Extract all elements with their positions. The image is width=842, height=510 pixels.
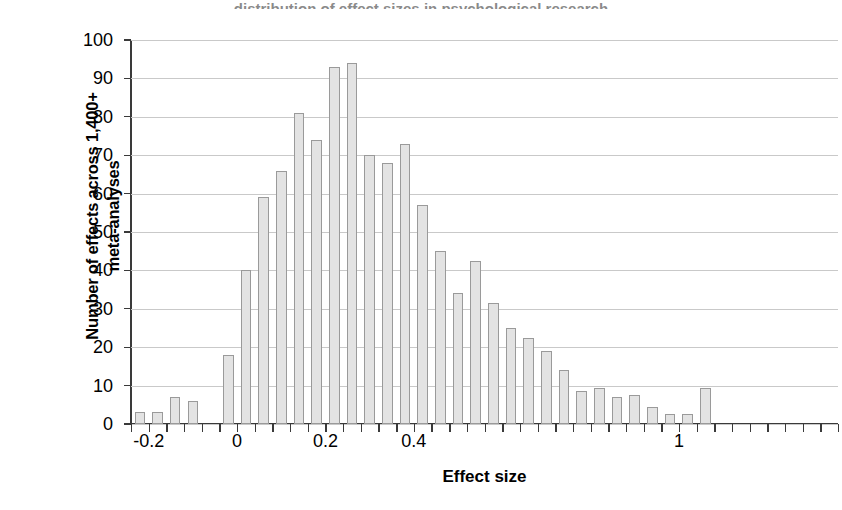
x-axis-tick <box>714 424 715 432</box>
y-axis-tick-label: 40 <box>53 261 113 279</box>
x-axis-tick-label: 1 <box>649 432 709 450</box>
x-axis-tick <box>838 424 839 432</box>
y-axis-tick <box>124 193 131 194</box>
x-axis-tick <box>485 424 486 432</box>
y-axis-tick <box>124 155 131 156</box>
x-axis-tick <box>538 424 539 432</box>
x-axis-tick <box>255 424 256 432</box>
y-axis-tick <box>124 423 131 424</box>
x-axis-tick <box>661 424 662 432</box>
y-axis-tick <box>124 116 131 117</box>
histogram-bar <box>453 293 464 424</box>
x-axis-tick-label: 0 <box>207 432 267 450</box>
x-axis-tick <box>820 424 821 432</box>
x-axis-tick <box>431 424 432 432</box>
histogram-bar <box>523 338 534 424</box>
histogram-bar <box>329 67 340 424</box>
x-axis-tick <box>573 424 574 432</box>
x-axis-tick <box>202 424 203 432</box>
x-axis-tick <box>396 424 397 432</box>
histogram-bar <box>152 412 163 424</box>
histogram-bar <box>594 388 605 424</box>
x-axis-tick <box>219 424 220 432</box>
gridline <box>131 40 838 41</box>
x-axis-tick <box>272 424 273 432</box>
histogram-bar <box>294 113 305 424</box>
gridline <box>131 309 838 310</box>
y-axis-tick-label: 80 <box>53 108 113 126</box>
gridline <box>131 386 838 387</box>
y-axis-tick <box>124 385 131 386</box>
histogram-bar <box>470 261 481 424</box>
histogram-bar <box>647 407 658 424</box>
gridline <box>131 155 838 156</box>
y-axis-tick-label: 0 <box>53 415 113 433</box>
x-axis-tick-label: 0.2 <box>295 432 355 450</box>
x-axis-tick <box>166 424 167 432</box>
y-axis-tick <box>124 231 131 232</box>
histogram-bar <box>347 63 358 424</box>
histogram-bar <box>488 303 499 424</box>
x-axis-tick-label: 0.4 <box>384 432 444 450</box>
x-axis-tick <box>555 424 556 432</box>
x-axis-tick <box>785 424 786 432</box>
histogram-bar <box>276 171 287 424</box>
histogram-bar <box>506 328 517 424</box>
x-axis-tick <box>644 424 645 432</box>
x-axis-title: Effect size <box>131 467 838 487</box>
y-axis-tick <box>124 308 131 309</box>
y-axis-tick-label: 50 <box>53 223 113 241</box>
x-axis-tick <box>697 424 698 432</box>
x-axis-tick <box>343 424 344 432</box>
plot-area: 0102030405060708090100 <box>131 40 838 424</box>
x-axis-tick <box>449 424 450 432</box>
histogram-bar <box>665 414 676 424</box>
y-axis-tick-label: 100 <box>53 31 113 49</box>
y-axis-tick <box>124 347 131 348</box>
histogram-bar <box>170 397 181 424</box>
y-axis-tick-label: 10 <box>53 377 113 395</box>
y-axis-tick <box>124 78 131 79</box>
histogram-bar <box>241 270 252 424</box>
histogram-bar <box>629 395 640 424</box>
x-axis-tick <box>467 424 468 432</box>
histogram-bar <box>559 370 570 424</box>
x-axis-tick <box>591 424 592 432</box>
histogram-bar <box>417 205 428 424</box>
x-axis-tick <box>626 424 627 432</box>
x-axis-tick <box>803 424 804 432</box>
gridline <box>131 232 838 233</box>
x-axis-tick <box>290 424 291 432</box>
histogram-bar <box>576 391 587 424</box>
effect-size-histogram-figure: distribution of effect sizes in psycholo… <box>0 0 842 510</box>
x-axis-tick <box>767 424 768 432</box>
x-axis-tick <box>750 424 751 432</box>
gridline <box>131 270 838 271</box>
histogram-bar <box>223 355 234 424</box>
histogram-bar <box>135 412 146 424</box>
histogram-bar <box>435 251 446 424</box>
y-axis-tick-label: 70 <box>53 146 113 164</box>
y-axis-tick-label: 90 <box>53 69 113 87</box>
gridline <box>131 78 838 79</box>
x-axis-tick <box>502 424 503 432</box>
histogram-bar <box>188 401 199 424</box>
gridline <box>131 117 838 118</box>
y-axis-tick <box>124 270 131 271</box>
y-axis-tick <box>124 39 131 40</box>
y-axis-tick-label: 60 <box>53 185 113 203</box>
x-axis-tick-label: -0.2 <box>119 432 179 450</box>
x-axis-tick <box>732 424 733 432</box>
x-axis-tick <box>378 424 379 432</box>
gridline <box>131 347 838 348</box>
histogram-bar <box>364 155 375 424</box>
x-axis-tick <box>608 424 609 432</box>
y-axis-tick-label: 20 <box>53 338 113 356</box>
x-axis-tick <box>361 424 362 432</box>
histogram-bar <box>382 163 393 424</box>
histogram-bar <box>700 388 711 424</box>
y-axis-tick-label: 30 <box>53 300 113 318</box>
gridline <box>131 194 838 195</box>
x-axis-tick <box>308 424 309 432</box>
histogram-bar <box>311 140 322 424</box>
